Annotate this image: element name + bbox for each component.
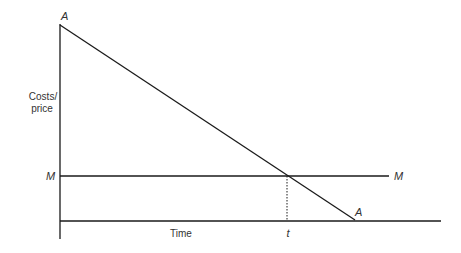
line-a xyxy=(60,25,355,220)
y-axis-label-line2: price xyxy=(31,103,53,114)
label-t: t xyxy=(286,227,290,239)
label-m-right: M xyxy=(394,170,404,182)
label-a-top: A xyxy=(60,10,68,22)
x-axis-label: Time xyxy=(170,228,192,239)
y-axis-label-line1: Costs/ xyxy=(29,91,58,102)
label-m-left: M xyxy=(46,170,56,182)
cost-price-diagram: A Costs/ price M M A Time t xyxy=(0,0,461,253)
label-a-end: A xyxy=(354,206,362,218)
